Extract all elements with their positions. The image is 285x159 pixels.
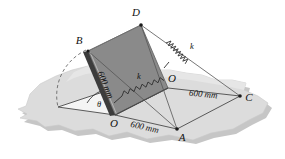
spring-outer [166,41,188,64]
label-point-c: C [245,91,253,103]
spring-inner-lead-b [164,62,169,68]
label-point-a: A [178,131,186,143]
mechanics-figure: D B A C O O θ k k 600 mm 600 mm 600 mm [0,0,285,159]
label-point-b: B [76,34,83,46]
dot-d [139,23,143,27]
spring-outer-coils [166,41,188,64]
dot-b [86,49,89,52]
label-point-o-bottom: O [110,117,118,129]
label-spring-k-inner: k [137,71,141,81]
label-point-o-right: O [168,72,176,84]
label-spring-k-outer: k [190,41,194,51]
diagram-canvas: D B A C O O θ k k 600 mm 600 mm 600 mm [0,0,285,159]
dot-c [238,94,242,98]
label-point-d: D [131,6,140,18]
label-angle-theta: θ [97,99,101,109]
